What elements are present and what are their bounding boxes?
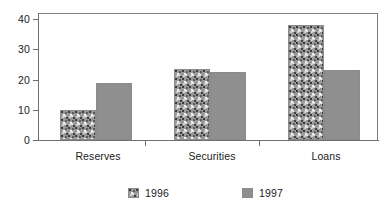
bars-layer <box>38 13 378 140</box>
x-axis-category-label-securities: Securities <box>172 150 252 162</box>
legend-entry-1997[interactable]: 1997 <box>242 186 283 200</box>
legend-swatch-1996-icon <box>128 188 139 198</box>
legend-label-1997: 1997 <box>259 188 283 199</box>
x-axis-category-label-reserves: Reserves <box>58 150 138 162</box>
bar-loans-1997 <box>324 70 360 140</box>
y-axis-tick-label-10: 10 <box>6 105 30 115</box>
bar-securities-1997 <box>210 72 246 140</box>
y-axis-tick-label-40: 40 <box>6 14 30 24</box>
legend-swatch-1997-icon <box>242 188 253 198</box>
legend-label-1996: 1996 <box>145 188 169 199</box>
y-axis-tick-0 <box>33 140 39 141</box>
x-axis-line <box>38 140 379 141</box>
bar-reserves-1997 <box>96 83 132 140</box>
x-axis-tick-2 <box>259 141 260 146</box>
chart-legend: 1996 1997 <box>0 186 390 200</box>
x-axis-tick-1 <box>145 141 146 146</box>
y-axis-tick-label-20: 20 <box>6 75 30 85</box>
bar-loans-1996 <box>288 25 324 140</box>
bar-securities-1996 <box>174 69 210 140</box>
y-axis-tick-label-0: 0 <box>6 135 30 145</box>
bar-chart: 40 30 20 10 0 Reserves Securities Loans … <box>0 0 390 210</box>
y-axis-tick-label-30: 30 <box>6 44 30 54</box>
x-axis-category-label-loans: Loans <box>286 150 366 162</box>
bar-reserves-1996 <box>60 110 96 140</box>
legend-entry-1996[interactable]: 1996 <box>128 186 169 200</box>
